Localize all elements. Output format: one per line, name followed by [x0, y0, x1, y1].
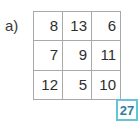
- grid-cell-r1c3[interactable]: 6: [92, 12, 121, 41]
- exercise-panel: a) 8 13 6 7 9 11 12 5 10: [0, 0, 139, 124]
- answer-badge[interactable]: 27: [116, 99, 138, 121]
- grid-cell-r2c1[interactable]: 7: [34, 41, 63, 70]
- number-grid: 8 13 6 7 9 11 12 5 10: [33, 11, 121, 100]
- grid-cell-r2c2[interactable]: 9: [63, 41, 92, 70]
- grid-cell-r3c2[interactable]: 5: [63, 70, 92, 99]
- grid-cell-r3c1[interactable]: 12: [34, 70, 63, 99]
- number-grid-container: 8 13 6 7 9 11 12 5 10: [33, 11, 120, 99]
- grid-cell-r2c3[interactable]: 11: [92, 41, 121, 70]
- grid-cell-r3c3[interactable]: 10: [92, 70, 121, 99]
- grid-cell-r1c2[interactable]: 13: [63, 12, 92, 41]
- table-row: 12 5 10: [34, 70, 121, 99]
- answer-badge-value: 27: [120, 104, 134, 117]
- table-row: 8 13 6: [34, 12, 121, 41]
- table-row: 7 9 11: [34, 41, 121, 70]
- part-label: a): [5, 18, 18, 34]
- grid-cell-r1c1[interactable]: 8: [34, 12, 63, 41]
